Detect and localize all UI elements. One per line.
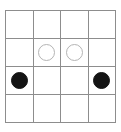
- board-cell-r3c1[interactable]: [6, 67, 34, 95]
- board-cell-r2c1[interactable]: [6, 39, 34, 67]
- stone-r2c3: [66, 44, 83, 61]
- board-cell-r4c1[interactable]: [6, 95, 34, 123]
- board-cell-r3c2[interactable]: [34, 67, 62, 95]
- board-cell-r3c3[interactable]: [61, 67, 89, 95]
- board-cell-r4c4[interactable]: [89, 95, 117, 123]
- board-cell-r2c3[interactable]: [61, 39, 89, 67]
- stone-r3c4: [93, 72, 110, 89]
- board-cell-r1c4[interactable]: [89, 11, 117, 39]
- board-cell-r3c4[interactable]: [89, 67, 117, 95]
- board-cell-r1c3[interactable]: [61, 11, 89, 39]
- board-cell-r2c4[interactable]: [89, 39, 117, 67]
- board-container: [0, 0, 121, 132]
- board-cell-r1c1[interactable]: [6, 11, 34, 39]
- stone-r3c1: [11, 72, 28, 89]
- board-cell-r2c2[interactable]: [34, 39, 62, 67]
- board-cell-r4c2[interactable]: [34, 95, 62, 123]
- stone-grid-board[interactable]: [5, 10, 116, 123]
- board-cell-r4c3[interactable]: [61, 95, 89, 123]
- board-cell-r1c2[interactable]: [34, 11, 62, 39]
- stone-r2c2: [38, 44, 55, 61]
